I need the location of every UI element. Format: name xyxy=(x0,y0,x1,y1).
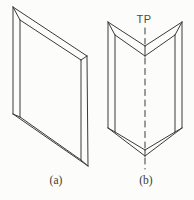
crystal-a-drawing xyxy=(13,7,88,166)
crystal-twinning-diagram: TP (a) (b) xyxy=(0,0,194,200)
caption-a: (a) xyxy=(50,174,63,187)
caption-b: (b) xyxy=(139,174,153,187)
diagram-page: TP (a) (b) xyxy=(0,0,194,200)
twin-plane-label: TP xyxy=(136,13,151,25)
